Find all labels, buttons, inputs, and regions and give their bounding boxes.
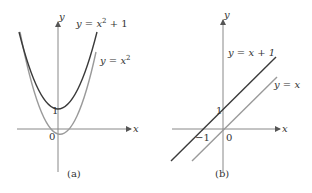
label-light-curve: y = x2 — [99, 54, 131, 66]
figure: y x 0 1 y = x2 + 1 y = x2 (a) y x 0 1 −1… — [0, 0, 312, 193]
y-axis-label: y — [58, 11, 65, 22]
caption-a: (a) — [67, 168, 81, 179]
panel-a: y x 0 1 y = x2 + 1 y = x2 (a) — [17, 11, 139, 179]
tick-one-label: 1 — [216, 105, 222, 116]
label-light-line: y = x — [273, 79, 300, 90]
line-x — [192, 77, 277, 161]
tick-neg-one-label: −1 — [195, 132, 210, 143]
y-axis-label: y — [223, 9, 230, 20]
caption-b: (b) — [215, 168, 229, 179]
tick-one-label: 1 — [52, 105, 58, 116]
x-axis-label: x — [282, 123, 288, 134]
label-dark-curve: y = x2 + 1 — [75, 17, 128, 29]
origin-label: 0 — [226, 132, 232, 143]
panel-b: y x 0 1 −1 y = x + 1 y = x (b) — [171, 9, 300, 179]
label-dark-line: y = x + 1 — [227, 47, 275, 58]
origin-label: 0 — [49, 131, 55, 142]
x-axis-label: x — [133, 123, 139, 134]
